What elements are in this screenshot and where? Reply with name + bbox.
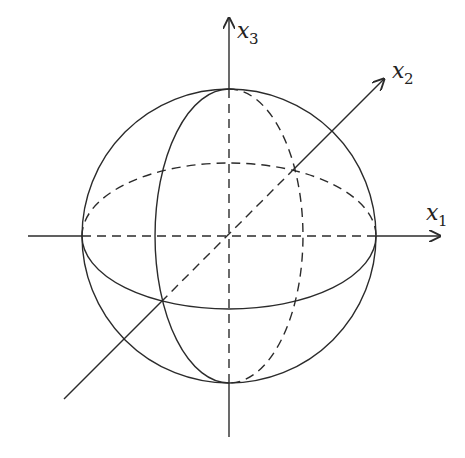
svg-text:1: 1 [438,212,448,230]
x2-axis-lower [64,302,161,399]
x1-label: x 1 [426,200,448,230]
x2-axis-upper [292,79,384,171]
x3-label: x 3 [237,18,259,48]
svg-text:3: 3 [249,30,259,48]
sphere-outline [82,89,376,383]
svg-text:2: 2 [404,70,414,88]
sphere-diagram: x 3 x 2 x 1 [0,0,465,458]
x2-label: x 2 [392,58,414,88]
